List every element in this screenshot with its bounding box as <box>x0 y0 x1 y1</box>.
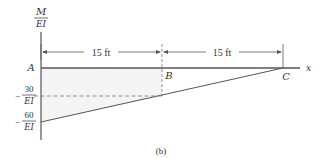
y-axis-label-numerator: M <box>35 6 47 17</box>
mei-diagram: M EI x 15 ft 15 ft A B C − 30 EI − 60 EI… <box>0 0 326 158</box>
dimension-label-ab: 15 ft <box>92 47 111 58</box>
y-tick-numerator-minus-60: 60 <box>25 110 35 120</box>
arrowhead-bc-right <box>277 50 282 54</box>
arrowhead-bc-left <box>163 50 168 54</box>
y-tick-denominator-minus-60: EI <box>23 122 34 132</box>
figure-caption: (b) <box>156 146 167 156</box>
y-tick-numerator-minus-30: 30 <box>25 84 35 94</box>
y-axis-label-denominator: EI <box>35 19 47 29</box>
arrowhead-ab-left <box>42 50 47 54</box>
y-tick-sign-minus-60: − <box>15 117 20 127</box>
arrowhead-ab-right <box>156 50 161 54</box>
point-label-c: C <box>282 71 290 82</box>
y-tick-denominator-minus-30: EI <box>23 96 34 106</box>
shaded-area-ab <box>41 68 162 122</box>
y-tick-sign-minus-30: − <box>15 91 20 101</box>
dimension-label-bc: 15 ft <box>213 47 232 58</box>
point-label-a: A <box>26 62 34 73</box>
x-axis-label: x <box>306 63 311 73</box>
point-label-b: B <box>164 70 172 81</box>
